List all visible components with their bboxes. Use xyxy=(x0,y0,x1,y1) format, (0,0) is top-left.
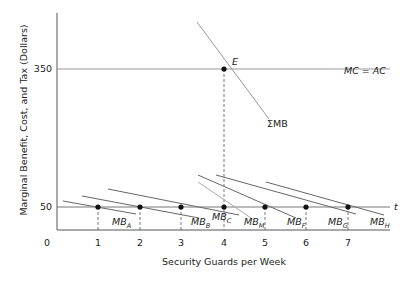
mb-m-label: MBM xyxy=(244,216,265,230)
x-axis-title: Security Guards per Week xyxy=(162,256,286,267)
equilibrium-label: E xyxy=(232,56,238,67)
mb-f-label: MBF xyxy=(287,216,306,230)
y-tick-350: 350 xyxy=(34,63,52,74)
equilibrium-point xyxy=(221,66,226,71)
chart: 350 50 0 1 2 3 4 5 6 7 Security Guards p… xyxy=(0,0,414,282)
sum-mb-line xyxy=(197,22,269,119)
mb-g-label: MBG xyxy=(328,216,348,230)
tax-label: t xyxy=(394,201,399,212)
y-axis-title: Marginal Benefit, Cost, and Tax (Dollars… xyxy=(18,24,29,215)
mb-h-label: MBH xyxy=(370,216,390,230)
x-tick-4: 4 xyxy=(221,237,227,248)
x-tick-2: 2 xyxy=(137,237,143,248)
x-tick-0: 0 xyxy=(44,237,50,248)
mb-b-label: MBB xyxy=(191,216,211,230)
x-tick-6: 6 xyxy=(303,237,309,248)
x-tick-5: 5 xyxy=(262,237,268,248)
sum-mb-label: ΣMB xyxy=(267,118,288,129)
x-tick-1: 1 xyxy=(95,237,101,248)
y-tick-50: 50 xyxy=(40,201,52,212)
mb-a-label: MBA xyxy=(112,216,131,230)
mb-h-line xyxy=(266,182,384,215)
x-tick-3: 3 xyxy=(178,237,184,248)
x-tick-7: 7 xyxy=(345,237,351,248)
mc-ac-label: MC = AC xyxy=(344,65,386,76)
